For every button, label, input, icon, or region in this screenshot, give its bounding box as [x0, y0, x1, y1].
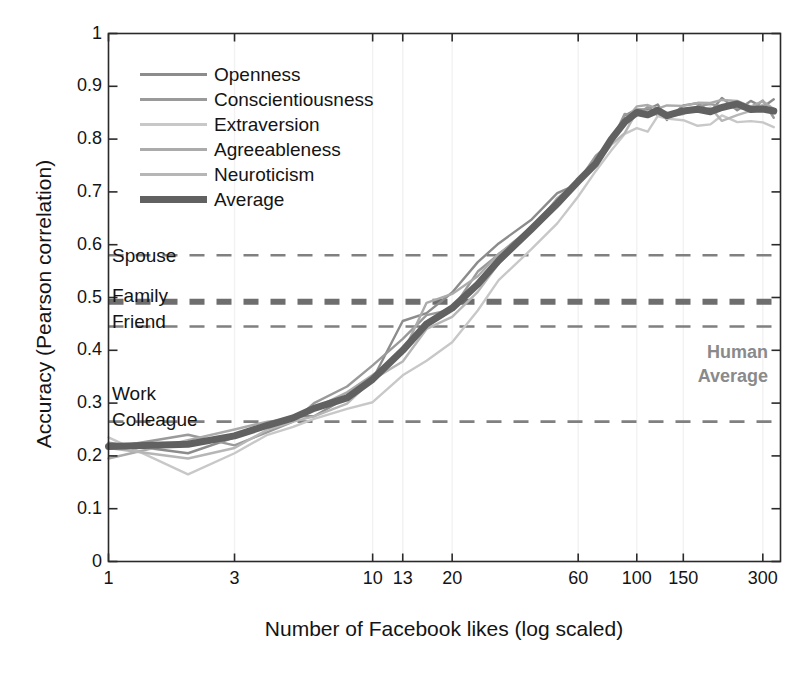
x-tick-label: 3 — [205, 568, 265, 589]
legend-swatch-extraversion — [140, 123, 207, 126]
x-axis-title: Number of Facebook likes (log scaled) — [108, 617, 780, 641]
reference-label-colleague: Colleague — [112, 409, 198, 431]
x-tick-label: 300 — [733, 568, 793, 589]
x-tick-label: 20 — [422, 568, 482, 589]
annotation-human-line2: Average — [648, 364, 768, 388]
chart-legend: OpennessConscientiousnessExtraversionAgr… — [140, 62, 373, 212]
reference-label-spouse: Spouse — [112, 245, 176, 267]
reference-label-family: Family — [112, 285, 168, 307]
legend-swatch-openness — [140, 73, 207, 76]
legend-swatch-conscientiousness — [140, 98, 207, 101]
figure-container: Accuracy (Pearson correlation) Number of… — [0, 0, 808, 675]
legend-swatch-neuroticism — [140, 173, 207, 176]
legend-swatch-agreeableness — [140, 148, 207, 151]
legend-item-neuroticism[interactable]: Neuroticism — [140, 162, 373, 187]
legend-item-openness[interactable]: Openness — [140, 62, 373, 87]
x-tick-label: 1 — [79, 568, 139, 589]
y-tick-label: 0.9 — [38, 75, 102, 96]
legend-item-extraversion[interactable]: Extraversion — [140, 112, 373, 137]
legend-label: Conscientiousness — [214, 90, 373, 109]
y-tick-label: 0.3 — [38, 392, 102, 413]
legend-label: Openness — [214, 65, 301, 84]
y-tick-label: 0.6 — [38, 234, 102, 255]
y-tick-label: 0.5 — [38, 287, 102, 308]
legend-swatch-average — [140, 196, 207, 203]
y-tick-label: 1 — [38, 23, 102, 44]
reference-lines-group — [109, 255, 781, 421]
y-tick-label: 0.7 — [38, 181, 102, 202]
legend-item-average[interactable]: Average — [140, 187, 373, 212]
annotation-human-average: Human Average — [648, 340, 768, 389]
annotation-human-line1: Human — [648, 340, 768, 364]
y-tick-label: 0.1 — [38, 498, 102, 519]
x-tick-label: 150 — [653, 568, 713, 589]
legend-item-conscientiousness[interactable]: Conscientiousness — [140, 87, 373, 112]
reference-label-friend: Friend — [112, 311, 166, 333]
y-tick-label: 0.2 — [38, 445, 102, 466]
legend-label: Extraversion — [214, 115, 320, 134]
legend-label: Agreeableness — [214, 140, 341, 159]
x-tick-label: 60 — [548, 568, 608, 589]
reference-label-work: Work — [112, 383, 156, 405]
legend-label: Average — [214, 190, 284, 209]
legend-item-agreeableness[interactable]: Agreeableness — [140, 137, 373, 162]
y-tick-label: 0.8 — [38, 128, 102, 149]
y-tick-label: 0.4 — [38, 339, 102, 360]
legend-label: Neuroticism — [214, 165, 314, 184]
